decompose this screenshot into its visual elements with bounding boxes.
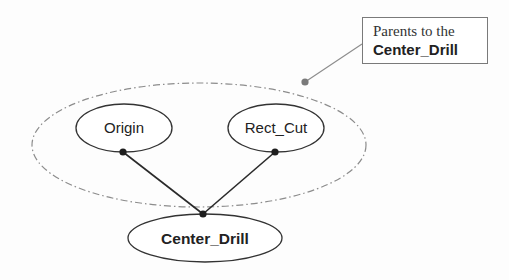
node-center-drill[interactable]: Center_Drill <box>128 214 282 262</box>
node-rect-cut[interactable]: Rect_Cut <box>228 104 324 152</box>
callout-box: Parents to the Center_Drill <box>362 17 488 64</box>
node-origin[interactable]: Origin <box>76 104 172 152</box>
parents-group-ellipse <box>32 83 366 207</box>
callout-text-line2: Center_Drill <box>373 40 487 59</box>
node-origin-label: Origin <box>104 119 144 136</box>
callout-anchor-dot <box>301 78 308 85</box>
edge-dot-rect-cut <box>271 148 278 155</box>
node-center-drill-label: Center_Drill <box>161 230 249 247</box>
callout-connector-line <box>305 44 362 82</box>
callout-text-line1: Parents to the <box>373 22 487 40</box>
edge-dot-center-drill <box>199 210 206 217</box>
diagram-canvas: Origin Rect_Cut Center_Drill Parents to … <box>0 0 509 280</box>
edge-origin-to-center-drill <box>123 152 203 214</box>
edge-dot-origin <box>119 148 126 155</box>
node-rect-cut-label: Rect_Cut <box>245 119 308 136</box>
